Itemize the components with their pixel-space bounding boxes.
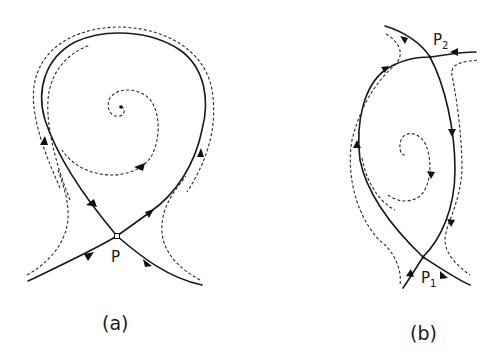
arrow-icon (353, 140, 361, 148)
inner-dashed-trajectory (48, 45, 90, 200)
arrow-icon (400, 36, 408, 44)
arrow-icon (448, 129, 456, 137)
stable-manifold-left (28, 236, 117, 281)
panel-b: P2 P1 (b) (350, 26, 477, 344)
saddle-point-p (115, 234, 120, 239)
caption-b: (b) (410, 322, 437, 344)
dashed-outer-right (445, 60, 477, 275)
label-p: P (111, 248, 120, 266)
arrow-icon (427, 171, 435, 179)
dashed-outer-left (350, 34, 400, 285)
focus-point (119, 105, 123, 109)
arrow-icon (447, 219, 455, 227)
unstable-manifold-right (117, 236, 202, 285)
panel-a: P (a) (27, 27, 214, 334)
heteroclinic-left-branch (359, 52, 476, 288)
heteroclinic-right-branch (385, 26, 455, 257)
caption-a: (a) (102, 312, 128, 334)
saddle-point-p1 (422, 256, 425, 259)
arrow-icon (197, 148, 204, 157)
arrow-icon (86, 199, 97, 207)
homoclinic-loop (42, 33, 206, 236)
saddle-point-p2 (429, 56, 432, 59)
label-p2: P2 (433, 31, 448, 51)
arrow-icon (40, 136, 48, 145)
dashed-hyperbola-left (27, 170, 68, 275)
label-p1: P1 (421, 269, 436, 289)
arrow-icon (145, 209, 154, 218)
phase-portrait-figure: P (a) P2 P1 (b) (0, 0, 495, 361)
inner-spiral (388, 134, 430, 201)
inner-spiral (62, 90, 158, 175)
dashed-hyperbola-right (162, 176, 200, 280)
